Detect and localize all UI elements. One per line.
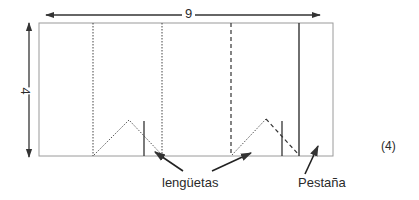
tab-triangle-1 — [94, 120, 162, 155]
tabs-callout-arrow-1 — [155, 152, 183, 171]
paper-outline — [39, 23, 333, 156]
flap-callout-arrow — [305, 146, 318, 174]
tabs-label: lengüetas — [162, 175, 218, 190]
flap-label: Pestaña — [298, 175, 346, 190]
width-dimension-label: 9 — [182, 6, 195, 22]
figure-number: (4) — [381, 139, 396, 153]
tab-triangle-2-left — [232, 119, 266, 155]
height-dimension-label: 4 — [16, 87, 34, 94]
folding-template-diagram — [0, 0, 419, 200]
